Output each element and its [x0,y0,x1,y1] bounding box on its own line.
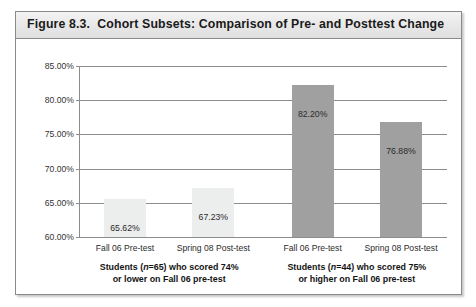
group-caption: Students (n=44) who scored 75%or higher … [287,261,426,285]
group-caption-line-1: Students (n=65) who scored 74% [100,261,239,273]
y-axis-tick-label: 60.00% [22,232,74,242]
y-axis-tick-label: 75.00% [22,129,74,139]
y-axis-tick-label: 70.00% [22,164,74,174]
figure-title-bar: Figure 8.3. Cohort Subsets: Comparison o… [16,12,461,39]
group-caption: Students (n=65) who scored 74%or lower o… [100,261,239,285]
y-axis-tick-label: 80.00% [22,95,74,105]
y-axis-tick-labels: 85.00%80.00%75.00%70.00%65.00%60.00% [22,40,74,295]
group-caption-line-1: Students (n=44) who scored 75% [287,261,426,273]
chart-plot-region: 85.00%80.00%75.00%70.00%65.00%60.00% 65.… [16,40,461,295]
group-caption-line-2: or lower on Fall 06 pre-test [100,273,239,285]
y-axis-tick-label: 85.00% [22,61,74,71]
figure-title: Figure 8.3. Cohort Subsets: Comparison o… [27,17,444,31]
figure-container: Figure 8.3. Cohort Subsets: Comparison o… [15,11,462,295]
group-caption-line-2: or higher on Fall 06 pre-test [287,273,426,285]
group-captions: Students (n=65) who scored 74%or lower o… [79,40,447,295]
y-axis-tick-label: 65.00% [22,198,74,208]
